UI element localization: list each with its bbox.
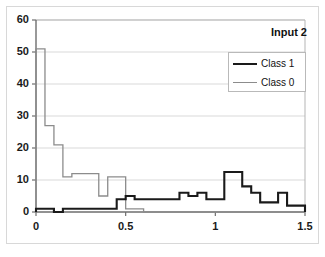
x-axis-tick-label: 1 <box>195 220 235 232</box>
y-axis-tick-label: 40 <box>17 77 29 89</box>
legend-item-class-0: Class 0 <box>229 73 305 92</box>
legend-label-class-0: Class 0 <box>261 77 294 88</box>
y-axis-tick-label: 50 <box>17 45 29 57</box>
y-axis-tick-label: 10 <box>17 173 29 185</box>
x-axis-tick-label: 0.5 <box>106 220 146 232</box>
y-axis-tick-label: 60 <box>17 13 29 25</box>
axis-ticks <box>32 20 305 216</box>
x-axis-tick-label: 0 <box>16 220 56 232</box>
legend-label-class-1: Class 1 <box>261 58 294 69</box>
chart-title: Input 2 <box>271 26 307 38</box>
x-axis-tick-label: 1.5 <box>285 220 325 232</box>
y-axis-tick-label: 30 <box>17 109 29 121</box>
chart-legend: Class 1 Class 0 <box>228 52 306 92</box>
chart-figure: 0102030405060 00.511.5 Input 2 Class 1 C… <box>0 0 325 257</box>
plot-area <box>0 0 325 257</box>
legend-line-swatch-class-1 <box>233 63 257 65</box>
y-axis-tick-label: 20 <box>17 141 29 153</box>
legend-item-class-1: Class 1 <box>229 54 305 73</box>
gridlines <box>36 20 305 180</box>
y-axis-tick-label: 0 <box>23 205 29 217</box>
legend-line-swatch-class-0 <box>233 82 257 83</box>
